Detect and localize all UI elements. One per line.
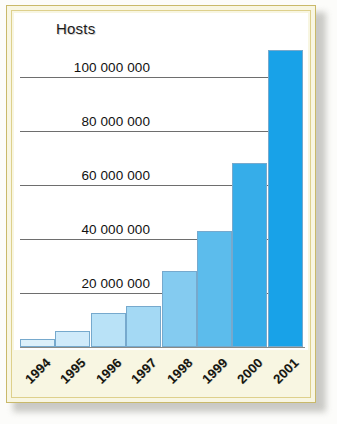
- chart-figure: Hosts 20 000 00040 000 00060 000 00080 0…: [0, 0, 337, 424]
- x-axis-tick-label-1994: 1994: [22, 355, 54, 387]
- x-axis-line: [20, 347, 305, 348]
- y-axis-tick-label: 100 000 000: [74, 60, 150, 75]
- bar-2000: [232, 163, 267, 347]
- bar-1996: [91, 313, 126, 347]
- y-axis-tick-label: 40 000 000: [81, 222, 150, 237]
- x-axis-tick-label-2000: 2000: [234, 355, 266, 387]
- bar-1994: [20, 339, 55, 347]
- bar-2001: [268, 50, 303, 347]
- gridline: [20, 131, 303, 132]
- gridline: [20, 77, 303, 78]
- y-axis-tick-label: 80 000 000: [81, 114, 150, 129]
- x-axis-tick-label-1995: 1995: [57, 355, 89, 387]
- bar-1998: [162, 271, 197, 347]
- plot-area: 20 000 00040 000 00060 000 00080 000 000…: [0, 0, 337, 424]
- y-axis-tick-label: 60 000 000: [81, 168, 150, 183]
- x-axis-tick-label-2001: 2001: [270, 355, 302, 387]
- x-axis-tick-label-1996: 1996: [93, 355, 125, 387]
- bar-1995: [55, 331, 90, 347]
- x-axis-tick-label-1999: 1999: [199, 355, 231, 387]
- x-axis-tick-label-1997: 1997: [128, 355, 160, 387]
- bar-1999: [197, 231, 232, 347]
- bar-1997: [126, 306, 161, 347]
- y-axis-tick-label: 20 000 000: [81, 276, 150, 291]
- x-axis-tick-label-1998: 1998: [164, 355, 196, 387]
